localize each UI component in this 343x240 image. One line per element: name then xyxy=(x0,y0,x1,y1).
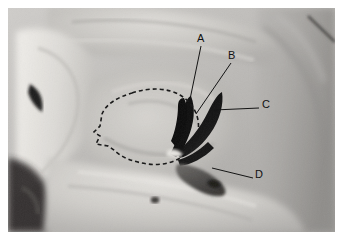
figure-page: A B C D xyxy=(0,0,343,240)
skull-photograph xyxy=(8,8,335,232)
label-d: D xyxy=(255,169,263,180)
photograph-canvas xyxy=(8,8,335,232)
label-a: A xyxy=(197,33,204,44)
label-b: B xyxy=(228,50,235,61)
film-grain xyxy=(8,8,335,232)
label-c: C xyxy=(262,99,270,110)
